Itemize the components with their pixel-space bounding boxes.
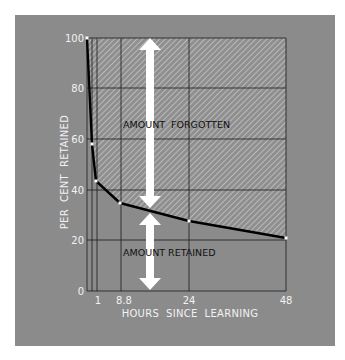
y-tick: 20 [71, 235, 84, 246]
x-tick-labels: 1 8.8 24 48 [95, 295, 293, 306]
retained-label: AMOUNT RETAINED [123, 247, 215, 258]
y-axis-title: PER CENT RETAINED [59, 115, 70, 230]
x-tick: 1 [95, 295, 101, 306]
forgetting-curve-chart: AMOUNT FORGOTTEN AMOUNT RETAINED 0 20 40… [0, 0, 345, 360]
x-tick: 24 [183, 295, 196, 306]
y-tick: 80 [71, 83, 84, 94]
y-tick: 100 [65, 33, 84, 44]
x-tick: 8.8 [116, 295, 132, 306]
y-tick: 0 [78, 286, 84, 297]
forgotten-label: AMOUNT FORGOTTEN [123, 119, 230, 130]
y-tick: 60 [71, 134, 84, 145]
x-axis-title: HOURS SINCE LEARNING [122, 308, 259, 319]
x-tick: 48 [280, 295, 293, 306]
forgotten-region [87, 38, 286, 238]
y-tick: 40 [71, 185, 84, 196]
